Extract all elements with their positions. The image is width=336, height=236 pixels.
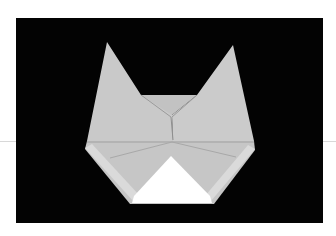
origami-cat-illustration: [0, 0, 336, 236]
right-ear: [172, 45, 254, 141]
left-ear: [87, 42, 173, 141]
